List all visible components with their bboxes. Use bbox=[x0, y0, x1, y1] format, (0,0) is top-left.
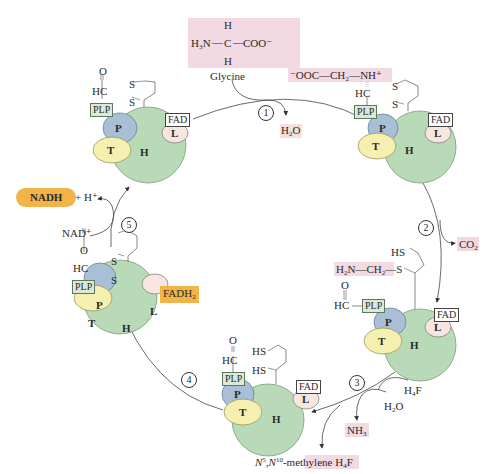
arrow-nh3-out bbox=[357, 395, 362, 420]
c4-o: O bbox=[229, 335, 237, 346]
arrow-nad-in bbox=[90, 199, 114, 236]
step-3-h2o: H2O bbox=[384, 401, 403, 414]
step-2-co2: CO2 bbox=[459, 239, 478, 252]
c3-fad: FAD bbox=[434, 308, 459, 322]
nadh-label: NADH bbox=[16, 188, 76, 207]
c5-H: H bbox=[122, 323, 131, 334]
arrow-step-1 bbox=[193, 99, 362, 119]
c4-P: P bbox=[234, 389, 241, 400]
step-3-nh3: NH3 bbox=[347, 425, 366, 438]
glycine-coo: COO⁻ bbox=[243, 38, 272, 49]
c5-L: L bbox=[150, 306, 157, 317]
arrow-co2-out bbox=[440, 220, 455, 243]
c5-P: P bbox=[96, 300, 103, 311]
c5-plp: PLP bbox=[72, 280, 95, 294]
c2-fad: FAD bbox=[428, 113, 453, 127]
c2-hc: HC bbox=[355, 88, 370, 99]
c1-P: P bbox=[115, 123, 122, 134]
c5-T: T bbox=[88, 318, 95, 329]
step-3-h4f: H4F bbox=[404, 385, 422, 398]
glycine-c: C bbox=[224, 38, 231, 49]
c3-hc: HC bbox=[334, 300, 349, 311]
c1-T: T bbox=[107, 145, 114, 156]
c4-hc: HC bbox=[222, 355, 237, 366]
step-1-h2o: H2O bbox=[281, 125, 300, 138]
c5-hc: HC bbox=[73, 263, 88, 274]
step-4-marker: 4 bbox=[181, 372, 197, 388]
c2-plp: PLP bbox=[354, 105, 377, 119]
step-2-marker: 2 bbox=[418, 220, 434, 236]
c4-L: L bbox=[302, 394, 309, 405]
schiff-base: ⁻OOC—CH₂—NH⁺ bbox=[290, 70, 382, 81]
c3-P: P bbox=[385, 317, 392, 328]
c3-aminomethyl: H2N—CH2—S bbox=[336, 264, 402, 277]
step-3-marker: 3 bbox=[349, 375, 365, 391]
methylene-word: methylene bbox=[287, 456, 333, 468]
c4-hs1: HS bbox=[252, 346, 266, 357]
c2-L: L bbox=[434, 128, 441, 139]
glycine-bond-left: — bbox=[212, 37, 223, 48]
c1-s1: S bbox=[129, 79, 135, 90]
c1-H: H bbox=[140, 147, 149, 158]
c1-o: O bbox=[99, 66, 107, 77]
c2-T: T bbox=[372, 141, 379, 152]
c1-plp: PLP bbox=[90, 103, 113, 117]
arrow-methylene-out bbox=[322, 405, 340, 448]
c2-P: P bbox=[379, 123, 386, 134]
c5-s2: S bbox=[111, 275, 117, 286]
c1-L: L bbox=[171, 128, 178, 139]
c5-s1: S bbox=[111, 256, 117, 267]
c3-plp: PLP bbox=[362, 299, 385, 313]
c1-fad: FAD bbox=[165, 113, 190, 127]
c3-T: T bbox=[378, 336, 385, 347]
c5-fadh2: FADH2 bbox=[160, 286, 199, 303]
step-1-marker: 1 bbox=[258, 105, 274, 121]
c3-H: H bbox=[410, 340, 419, 351]
c4-plp: PLP bbox=[222, 372, 245, 386]
c2-s1: S bbox=[392, 81, 398, 92]
glycine-label: Glycine bbox=[210, 71, 245, 82]
c5-o: O bbox=[80, 245, 88, 256]
c3-hs: HS bbox=[391, 247, 405, 258]
h-plus-label: + H⁺ bbox=[75, 192, 98, 203]
arrow-h2o-in bbox=[362, 389, 386, 395]
glycine-h-top: H bbox=[224, 20, 232, 31]
step-3-methylene: N5,N10-methylene H4F bbox=[255, 457, 353, 470]
c1-s2: S bbox=[129, 97, 135, 108]
c3-L: L bbox=[434, 322, 441, 333]
c2-H: H bbox=[405, 145, 414, 156]
nad-plus-label: NAD⁺ bbox=[62, 228, 92, 239]
c4-fad: FAD bbox=[296, 380, 321, 394]
arrow-step-2 bbox=[423, 183, 441, 302]
c4-T: T bbox=[239, 407, 246, 418]
c4-hs2: HS bbox=[252, 365, 266, 376]
c4-H: H bbox=[272, 414, 281, 425]
glycine-n: H₃N bbox=[191, 38, 211, 49]
c3-o: O bbox=[341, 280, 349, 291]
glycine-h-bottom: H bbox=[224, 56, 232, 67]
c2-s2: S bbox=[392, 99, 398, 110]
c1-hc: HC bbox=[92, 86, 107, 97]
step-5-marker: 5 bbox=[121, 217, 137, 233]
